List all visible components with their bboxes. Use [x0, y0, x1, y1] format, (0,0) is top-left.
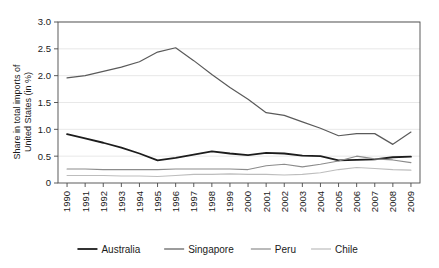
x-tick-label: 2005 — [333, 191, 344, 212]
y-tick-label: 0.5 — [38, 151, 51, 162]
x-tick-label: 1997 — [188, 191, 199, 212]
x-tick-label: 2006 — [351, 191, 362, 212]
x-tick-label: 2003 — [297, 191, 308, 212]
y-axis-label-line2: United States (in %) — [23, 72, 33, 152]
line-chart: 00.51.01.52.02.53.0 19901991199219931994… — [0, 0, 439, 268]
x-tick-label: 2007 — [369, 191, 380, 212]
x-tick-label: 1998 — [206, 191, 217, 212]
x-tick-label: 1996 — [170, 191, 181, 212]
y-tick-label: 2.5 — [38, 43, 51, 54]
legend-label-australia: Australia — [101, 244, 140, 255]
legend-label-singapore: Singapore — [188, 244, 234, 255]
x-tick-label: 2008 — [387, 191, 398, 212]
legend-label-chile: Chile — [335, 244, 358, 255]
x-tick-label: 1990 — [61, 191, 72, 212]
x-tick-label: 1994 — [134, 191, 145, 212]
x-tick-label: 2004 — [315, 191, 326, 212]
x-tick-label: 2001 — [261, 191, 272, 212]
y-tick-label: 1.0 — [38, 124, 51, 135]
x-tick-label: 2000 — [242, 191, 253, 212]
y-tick-label: 3.0 — [38, 16, 51, 27]
y-tick-label: 0 — [46, 177, 51, 188]
y-tick-label: 1.5 — [38, 97, 51, 108]
y-axis-label: Share in total imports of United States … — [12, 64, 33, 160]
y-tick-label: 2.0 — [38, 70, 51, 81]
legend-label-peru: Peru — [275, 244, 296, 255]
chart-figure: 00.51.01.52.02.53.0 19901991199219931994… — [0, 0, 439, 268]
x-tick-label: 1992 — [98, 191, 109, 212]
x-tick-label: 2009 — [405, 191, 416, 212]
x-tick-label: 2002 — [279, 191, 290, 212]
y-axis-label-line1: Share in total imports of — [12, 64, 22, 160]
x-tick-label: 1991 — [80, 191, 91, 212]
x-tick-label: 1993 — [116, 191, 127, 212]
x-tick-label: 1995 — [152, 191, 163, 212]
x-tick-label: 1999 — [224, 191, 235, 212]
